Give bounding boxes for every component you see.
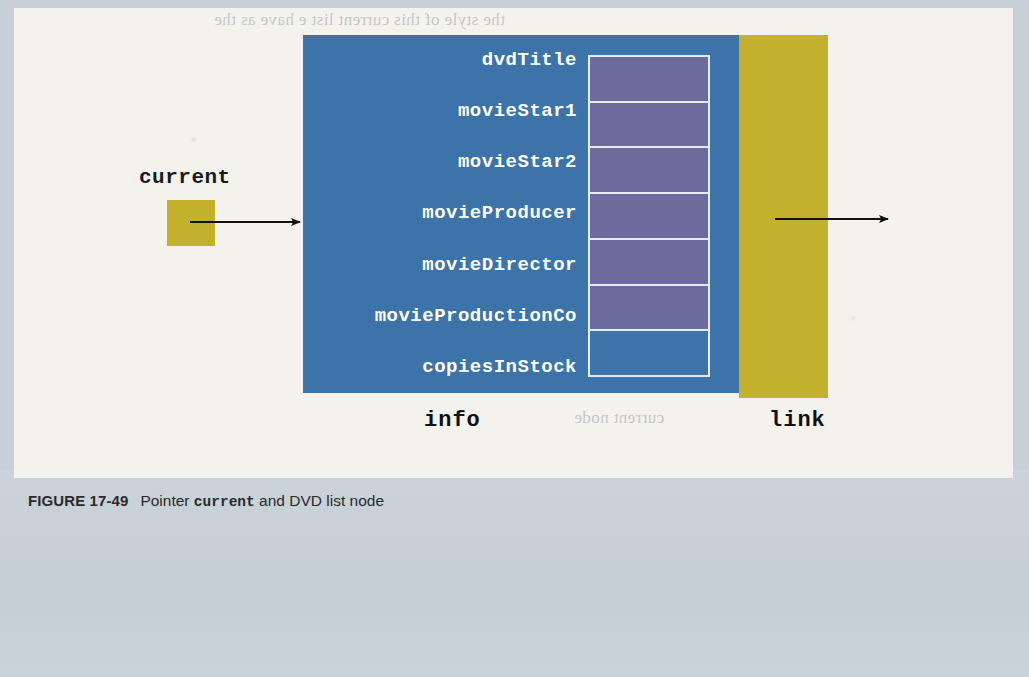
figure-caption-text: Pointer current and DVD list node — [140, 492, 384, 510]
label-link: link — [769, 408, 826, 433]
caption-text-before: Pointer — [140, 492, 189, 509]
caption-code-current: current — [194, 494, 255, 510]
caption-text-after: and DVD list node — [259, 492, 384, 509]
label-info: info — [424, 408, 481, 433]
figure-caption: FIGURE 17-49 Pointer current and DVD lis… — [28, 492, 384, 510]
dvd-list-node-diagram: dvdTitle movieStar1 movieStar2 movieProd… — [0, 0, 1029, 470]
figure-caption-number: FIGURE 17-49 — [28, 492, 128, 509]
arrow-layer — [0, 0, 1029, 470]
page-background: the style of this current list e have as… — [0, 0, 1029, 677]
